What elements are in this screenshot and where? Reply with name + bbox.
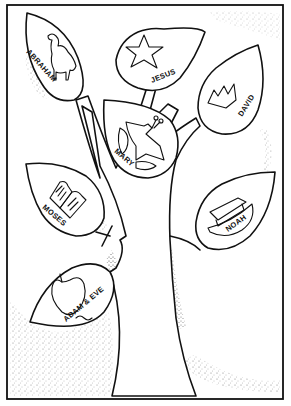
family-tree-illustration: ABRAHAM JESUS DAVID MARY: [0, 0, 291, 406]
